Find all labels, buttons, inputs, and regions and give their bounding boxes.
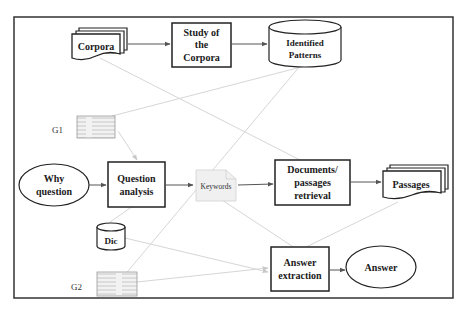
g1-thumbnail [77, 116, 115, 138]
patterns-line-1: Identified [286, 38, 324, 48]
node-g2: G2 [71, 272, 137, 296]
node-dic: Dic [97, 223, 125, 250]
node-passages: Passages [383, 165, 448, 199]
extraction-line-2: extraction [278, 270, 322, 281]
retrieval-line-3: retrieval [294, 190, 331, 201]
g2-label: G2 [71, 282, 82, 292]
node-answer: Answer [346, 246, 416, 288]
qa-line-2: analysis [120, 186, 154, 197]
corpora-label: Corpora [78, 41, 115, 52]
node-documents-retrieval: Documents/ passages retrieval [275, 160, 350, 205]
dic-label: Dic [105, 236, 118, 246]
retrieval-line-1: Documents/ [287, 164, 338, 175]
study-line-3: Corpora [183, 52, 220, 63]
why-line-2: question [36, 186, 73, 197]
keywords-label: Keywords [201, 182, 232, 191]
g1-label: G1 [52, 125, 63, 135]
node-why-question: Why question [19, 164, 89, 206]
why-line-1: Why [44, 173, 65, 184]
extraction-line-1: Answer [284, 257, 317, 268]
qa-system-diagram: Corpora Study of the Corpora Identified … [0, 0, 463, 315]
g2-thumbnail [97, 272, 137, 296]
study-line-1: Study of [184, 27, 221, 38]
node-keywords: Keywords [196, 170, 236, 201]
study-line-2: the [195, 39, 209, 50]
node-question-analysis: Question analysis [108, 162, 165, 207]
qa-line-1: Question [117, 173, 156, 184]
patterns-line-2: Patterns [289, 50, 322, 60]
node-study-of-corpora: Study of the Corpora [172, 23, 231, 67]
passages-label: Passages [392, 179, 429, 190]
node-answer-extraction: Answer extraction [271, 247, 329, 291]
node-corpora: Corpora [72, 28, 127, 60]
retrieval-line-2: passages [294, 177, 331, 188]
node-identified-patterns: Identified Patterns [269, 20, 341, 67]
answer-label: Answer [365, 262, 398, 273]
node-g1: G1 [52, 116, 115, 138]
